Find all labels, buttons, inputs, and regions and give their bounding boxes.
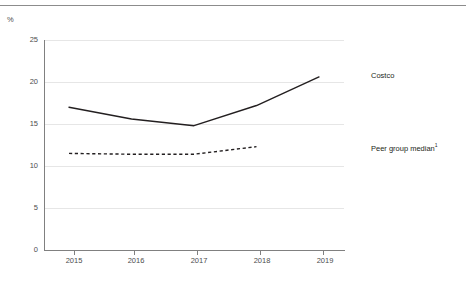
series-line-peer-group-median	[69, 147, 257, 155]
chart-figure: Return on invested capital % 0 5 10 15 2…	[0, 0, 466, 286]
legend-label-costco: Costco	[371, 72, 394, 80]
legend-peer-text: Peer group median	[371, 144, 435, 153]
legend-label-peer-group-median: Peer group median1	[371, 143, 438, 152]
legend-peer-footnote-marker: 1	[435, 142, 438, 148]
series-line-costco	[69, 77, 319, 126]
